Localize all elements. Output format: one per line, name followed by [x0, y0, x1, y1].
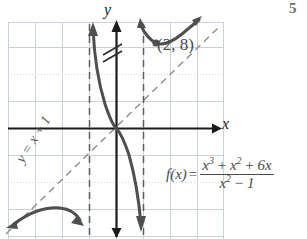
numer-term3: 6x: [257, 157, 271, 173]
equals-sign: =: [189, 167, 197, 182]
point-coordinate-label: (2, 8): [157, 36, 194, 53]
function-fraction: x3 + x2 + 6x x2 − 1: [200, 158, 273, 191]
page-number-artifact: 5: [289, 1, 299, 15]
fraction-denominator: x2 − 1: [217, 175, 256, 191]
curve-left-branch: [14, 208, 80, 224]
numer-operator1: +: [214, 157, 230, 173]
rational-function-graph-figure: y x (2, 8) y = x + 1 f(x) = x3 + x2 + 6x…: [0, 0, 307, 239]
fraction-numerator: x3 + x2 + 6x: [200, 158, 273, 174]
axis-break-marks-icon: [103, 44, 122, 62]
numer-term1-base: x: [202, 157, 209, 173]
denom-term2: 1: [247, 175, 255, 191]
numer-operator2: +: [241, 157, 257, 173]
numer-term2-base: x: [230, 157, 237, 173]
function-name: f(x): [166, 167, 187, 182]
function-definition-label: f(x) = x3 + x2 + 6x x2 − 1: [166, 158, 274, 191]
y-axis-label: y: [104, 2, 111, 18]
denom-operator: −: [231, 175, 247, 191]
x-axis-label: x: [222, 116, 229, 132]
